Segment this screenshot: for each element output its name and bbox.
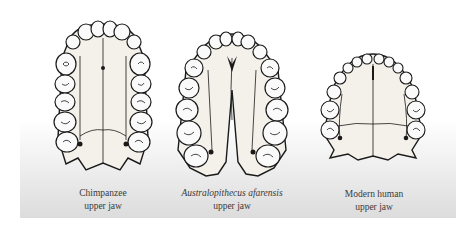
caption-chimpanzee: Chimpanzee upper jaw [56, 187, 150, 213]
caption-chimpanzee-line1: Chimpanzee [56, 187, 150, 200]
caption-australopithecus-line1: Australopithecus afarensis [172, 187, 292, 200]
caption-modern-human: Modern human upper jaw [324, 188, 424, 214]
australopithecus-jaw-drawing [172, 30, 292, 180]
caption-modern-human-line1: Modern human [324, 188, 424, 201]
caption-chimpanzee-line2: upper jaw [56, 200, 150, 213]
caption-modern-human-line2: upper jaw [324, 201, 424, 214]
modern-human-jaw-drawing [318, 50, 428, 166]
caption-australopithecus-line2: upper jaw [172, 200, 292, 213]
caption-australopithecus: Australopithecus afarensis upper jaw [172, 187, 292, 213]
chimpanzee-jaw-drawing [48, 18, 158, 178]
